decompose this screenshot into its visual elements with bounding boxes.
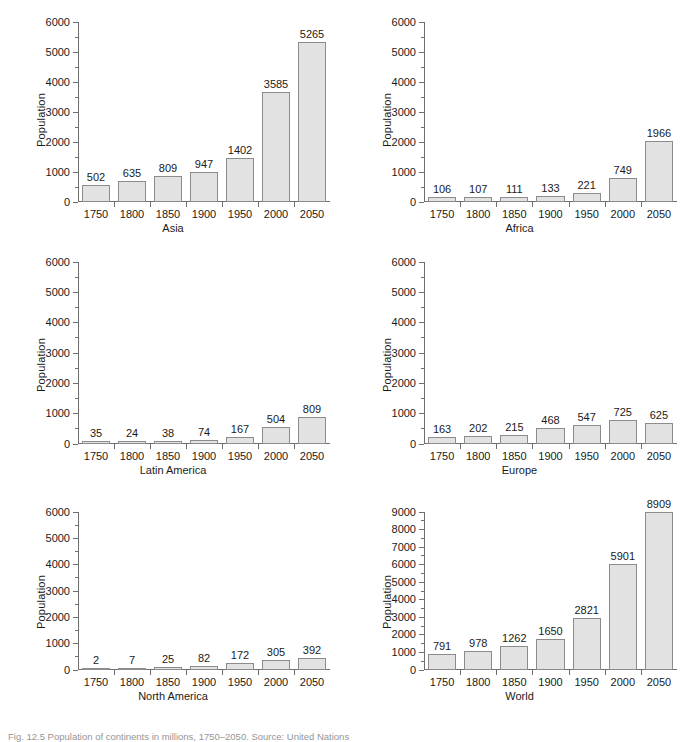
bar [609,564,637,670]
tick-mark [421,555,424,556]
bar [226,663,254,670]
tick-mark [73,52,78,53]
tick-mark [73,22,78,23]
tick-mark [419,634,424,635]
bar-value-label: 1650 [538,626,562,637]
x-axis-tick-label: 1750 [430,677,454,688]
x-axis-tick [605,444,606,449]
tick-mark [73,512,78,513]
chart-panel-asia: Population010002000300040005000600050217… [0,0,346,240]
bar-value-label: 163 [433,424,451,435]
chart-panel-africa: Population010002000300040005000600010617… [346,0,693,240]
bar-value-label: 749 [614,165,632,176]
bar-value-label: 2 [93,655,99,666]
tick-mark [421,398,424,399]
tick-mark [419,172,424,173]
bar-value-label: 392 [303,645,321,656]
bar [82,668,110,670]
bar [262,92,290,202]
y-axis-tick-label: 0 [410,665,416,676]
y-axis-tick-label: 0 [64,665,70,676]
bar-value-label: 8909 [647,499,671,510]
tick-mark [419,652,424,653]
y-axis-tick-label: 4000 [46,559,70,570]
y-axis-tick-label: 1000 [46,167,70,178]
plot-area: 0100020003000400050006000351750241800381… [78,262,330,444]
y-axis-tick-label: 2000 [46,612,70,623]
bar [500,435,528,444]
x-axis-tick [641,670,642,675]
x-axis-tick-label: 2000 [611,677,635,688]
bar-value-label: 502 [87,172,105,183]
y-axis-tick-label: 1000 [46,638,70,649]
bar-value-label: 5901 [611,551,635,562]
bar-value-label: 215 [505,422,523,433]
x-axis-tick [294,444,295,449]
tick-mark [73,643,78,644]
tick-mark [419,599,424,600]
tick-mark [421,520,424,521]
bar [226,437,254,444]
bar-value-label: 172 [231,650,249,661]
tick-mark [419,444,424,445]
chart-panel-latin-america: Population010002000300040005000600035175… [0,240,346,490]
bar [190,172,218,202]
x-axis-tick-label: 1800 [120,677,144,688]
y-axis-tick-label: 5000 [46,533,70,544]
x-axis-tick-label: 2000 [611,209,635,220]
bar [573,618,601,670]
tick-mark [73,413,78,414]
bar-value-label: 725 [614,407,632,418]
bar [464,197,492,202]
tick-mark [75,127,78,128]
x-axis-tick [294,670,295,675]
tick-mark [421,37,424,38]
bar-value-label: 547 [577,412,595,423]
x-axis-tick-label: 1800 [466,451,490,462]
bar [118,181,146,202]
x-axis-tick [496,670,497,675]
x-axis-tick-label: 1900 [538,451,562,462]
bar-value-label: 202 [469,423,487,434]
y-axis-tick-label: 6000 [392,559,416,570]
bar-value-label: 504 [267,414,285,425]
bar [428,437,456,444]
y-axis-tick-label: 4000 [392,77,416,88]
tick-mark [75,428,78,429]
y-axis-tick-label: 8000 [392,524,416,535]
y-axis-tick-label: 3000 [46,107,70,118]
x-axis-tick-label: 1900 [192,677,216,688]
plot-area: 0100020003000400050006000217507180025185… [78,512,330,670]
x-axis-tick-label: 1750 [84,209,108,220]
tick-mark [73,538,78,539]
bar [464,436,492,444]
tick-mark [419,353,424,354]
bar [645,512,673,670]
tick-mark [75,368,78,369]
tick-mark [73,670,78,671]
x-axis-tick [258,670,259,675]
y-axis-tick-label: 0 [410,439,416,450]
bar-value-label: 791 [433,641,451,652]
x-axis-tick-label: 2050 [647,677,671,688]
tick-mark [419,202,424,203]
tick-mark [419,564,424,565]
bar-value-label: 5265 [300,29,324,40]
x-axis-tick [460,202,461,207]
x-axis-tick-label: 1950 [574,209,598,220]
x-axis-tick-label: 2000 [264,677,288,688]
x-axis-tick [569,202,570,207]
bar [609,420,637,444]
x-axis-tick [605,202,606,207]
x-axis-label: Africa [346,222,693,234]
bar-value-label: 107 [469,184,487,195]
bar-value-label: 167 [231,424,249,435]
y-axis-tick-label: 3000 [392,348,416,359]
tick-mark [73,444,78,445]
x-axis-tick [258,202,259,207]
y-axis-tick-label: 5000 [392,47,416,58]
x-axis-tick [460,670,461,675]
tick-mark [75,307,78,308]
bar [298,42,326,202]
tick-mark [421,97,424,98]
